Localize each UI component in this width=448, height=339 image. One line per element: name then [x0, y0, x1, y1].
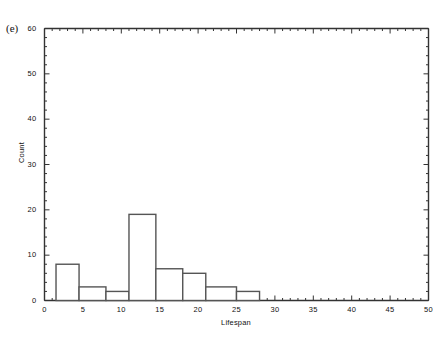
x-tick-label: 40 — [339, 305, 365, 314]
histogram-bar — [129, 214, 156, 300]
y-tick-label: 20 — [15, 205, 37, 214]
y-tick-label: 10 — [15, 250, 37, 259]
plot-canvas — [0, 0, 448, 339]
histogram-bar — [183, 273, 206, 300]
x-tick-label: 20 — [185, 305, 211, 314]
histogram-bar — [106, 291, 129, 300]
histogram-figure: (e) Count Lifespan 0102030405060 0510152… — [0, 0, 448, 339]
x-tick-label: 0 — [32, 305, 58, 314]
y-tick-label: 0 — [15, 296, 37, 305]
x-tick-label: 45 — [377, 305, 403, 314]
histogram-bar — [237, 291, 260, 300]
x-tick-label: 30 — [262, 305, 288, 314]
y-tick-label: 40 — [15, 114, 37, 123]
x-tick-label: 15 — [147, 305, 173, 314]
y-tick-label: 50 — [15, 69, 37, 78]
histogram-bar — [156, 269, 183, 301]
x-axis-label: Lifespan — [44, 318, 428, 327]
x-tick-label: 35 — [300, 305, 326, 314]
y-axis-label: Count — [17, 123, 26, 183]
histogram-bar — [56, 264, 79, 300]
x-tick-label: 10 — [108, 305, 134, 314]
x-tick-label: 50 — [416, 305, 442, 314]
x-tick-label: 25 — [224, 305, 250, 314]
histogram-bar — [79, 287, 106, 301]
y-tick-label: 30 — [15, 160, 37, 169]
y-tick-label: 60 — [15, 24, 37, 33]
x-tick-label: 5 — [70, 305, 96, 314]
histogram-bar — [206, 287, 237, 301]
